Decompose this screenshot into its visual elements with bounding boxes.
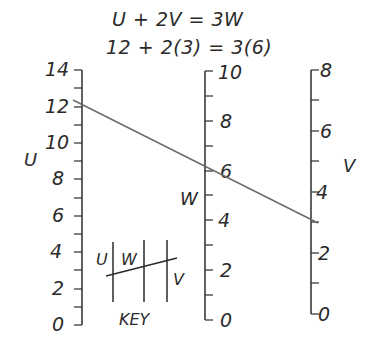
- w-tick-10: 10: [218, 61, 242, 83]
- nomogram-diagram: U + 2V = 3W 12 + 2(3) = 3(6) 0 2 4 6 8 1…: [0, 0, 376, 354]
- u-tick-8: 8: [52, 167, 64, 189]
- u-axis-label: U: [24, 149, 37, 170]
- w-tick-0: 0: [220, 309, 232, 331]
- u-tick-0: 0: [52, 313, 64, 335]
- key-v-label: V: [173, 270, 185, 289]
- key-u-label: U: [96, 250, 108, 269]
- u-tick-14: 14: [45, 58, 69, 80]
- w-axis-label: W: [180, 188, 199, 209]
- v-tick-2: 2: [318, 242, 330, 264]
- key-diagram: U W V KEY: [96, 240, 185, 329]
- u-tick-12: 12: [45, 95, 69, 117]
- u-tick-6: 6: [52, 204, 64, 226]
- equation-example: 12 + 2(3) = 3(6): [106, 36, 272, 58]
- v-tick-0: 0: [318, 303, 330, 325]
- v-tick-6: 6: [320, 120, 332, 142]
- u-tick-2: 2: [52, 277, 64, 299]
- equation-title: U + 2V = 3W: [112, 8, 244, 30]
- w-tick-8: 8: [220, 110, 232, 132]
- w-tick-4: 4: [218, 209, 230, 231]
- u-tick-10: 10: [45, 131, 69, 153]
- u-tick-4: 4: [50, 240, 62, 262]
- v-axis-label: V: [343, 155, 357, 176]
- w-tick-2: 2: [220, 259, 232, 281]
- key-w-label: W: [121, 250, 138, 269]
- v-tick-4: 4: [316, 181, 328, 203]
- w-axis: 0 2 4 6 8 10 W: [180, 61, 242, 331]
- v-tick-8: 8: [320, 59, 332, 81]
- key-title: KEY: [119, 310, 151, 329]
- v-axis: 0 2 4 6 8 V: [311, 59, 357, 325]
